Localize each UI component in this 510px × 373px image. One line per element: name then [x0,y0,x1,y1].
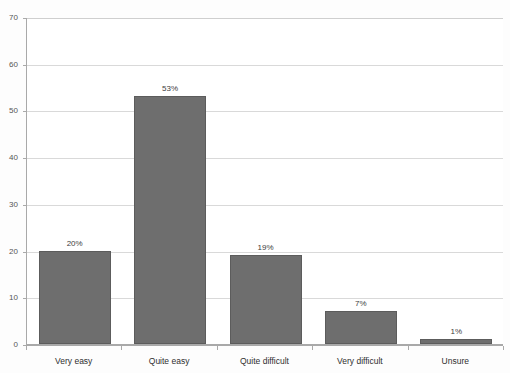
chart-title-clipped [0,0,510,7]
x-axis-category-label: Unsure [408,356,503,366]
x-tick-mark [26,346,27,350]
bar-group[interactable]: 1% [420,17,492,344]
bar-value-label: 53% [134,84,206,93]
y-tick-mark-50 [23,111,27,112]
y-axis-tick-label: 0 [0,341,18,349]
y-tick-mark-40 [23,158,27,159]
y-axis-tick-label: 40 [0,154,18,162]
x-tick-mark [121,346,122,350]
y-axis-tick-label: 60 [0,61,18,69]
x-axis-category-label: Quite easy [121,356,216,366]
y-tick-mark-30 [23,205,27,206]
bar-group[interactable]: 19% [230,17,302,344]
bar-very-difficult[interactable] [325,311,397,344]
y-axis-tick-label: 30 [0,201,18,209]
bar-group[interactable]: 20% [39,17,111,344]
y-axis-tick-label: 50 [0,107,18,115]
x-axis-category-label: Very difficult [312,356,407,366]
bar-chart: 20%53%19%7%1% 010203040506070 Very easyQ… [0,0,510,373]
y-tick-mark-20 [23,252,27,253]
x-axis-category-label: Quite difficult [217,356,312,366]
bar-value-label: 1% [420,327,492,336]
x-tick-mark [312,346,313,350]
bar-value-label: 20% [39,239,111,248]
x-tick-mark [408,346,409,350]
bar-value-label: 19% [230,243,302,252]
bar-quite-easy[interactable] [134,96,206,344]
bar-unsure[interactable] [420,339,492,344]
x-axis: Very easyQuite easyQuite difficultVery d… [26,346,503,373]
x-axis-category-label: Very easy [26,356,121,366]
bar-value-label: 7% [325,299,397,308]
y-tick-mark-10 [23,298,27,299]
plot-area: 20%53%19%7%1% [26,18,503,345]
bars-layer: 20%53%19%7%1% [27,18,503,344]
bar-very-easy[interactable] [39,251,111,344]
bar-quite-difficult[interactable] [230,255,302,344]
y-axis-tick-label: 10 [0,294,18,302]
y-tick-mark-60 [23,65,27,66]
x-tick-mark [503,346,504,350]
y-axis-tick-label: 20 [0,248,18,256]
bar-group[interactable]: 53% [134,17,206,344]
y-tick-mark-70 [23,18,27,19]
bar-group[interactable]: 7% [325,17,397,344]
y-axis-tick-label: 70 [0,14,18,22]
x-tick-mark [217,346,218,350]
